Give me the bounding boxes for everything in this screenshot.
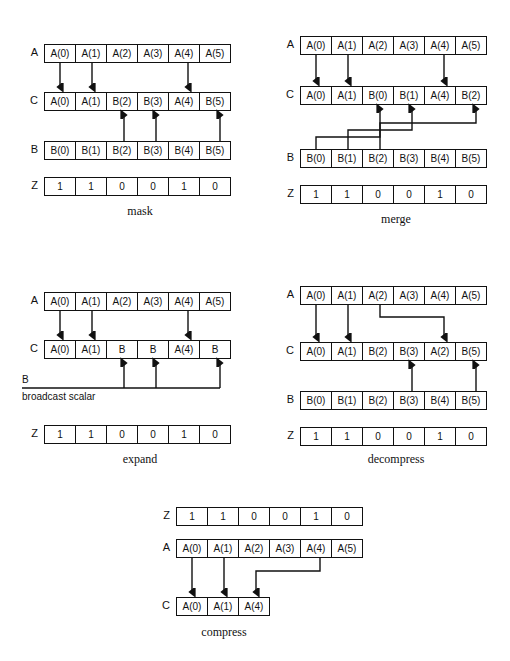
row-label-a: A: [22, 294, 38, 306]
expand-connectors: [44, 292, 254, 452]
row-label-b: B: [22, 143, 38, 155]
decompress-connectors: [300, 286, 510, 451]
row-label-z: Z: [278, 187, 294, 199]
row-label-z: Z: [278, 429, 294, 441]
scalar-label-b: B: [22, 374, 29, 385]
row-label-c: C: [278, 344, 294, 356]
row-label-b: B: [278, 151, 294, 163]
mask-connectors: [44, 44, 254, 204]
row-label-a: A: [278, 38, 294, 50]
row-label-c: C: [22, 342, 38, 354]
panel-caption: mask: [60, 204, 220, 219]
row-label-c: C: [154, 599, 170, 611]
row-label-b: B: [278, 393, 294, 405]
panel-caption: decompress: [316, 452, 476, 467]
row-label-z: Z: [22, 179, 38, 191]
merge-connectors: [300, 36, 510, 211]
row-label-z: Z: [22, 427, 38, 439]
panel-caption: compress: [144, 625, 304, 640]
row-label-c: C: [22, 94, 38, 106]
row-label-a: A: [154, 541, 170, 553]
panel-caption: expand: [60, 452, 220, 467]
panel-caption: merge: [316, 212, 476, 227]
row-label-a: A: [278, 288, 294, 300]
row-label-z: Z: [154, 509, 170, 521]
row-label-c: C: [278, 88, 294, 100]
row-label-a: A: [22, 46, 38, 58]
